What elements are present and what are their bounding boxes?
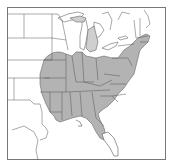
map-svg: [0, 0, 175, 168]
range-map: Shaded range: [0, 0, 175, 168]
